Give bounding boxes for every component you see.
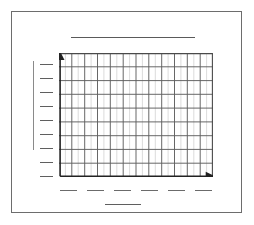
- plot-grid: [59, 53, 213, 177]
- y-tick-label: [40, 78, 53, 79]
- figure-canvas: [0, 0, 254, 225]
- x-tick-label: [141, 190, 158, 191]
- y-tick-label: [40, 106, 53, 107]
- y-tick-label: [40, 148, 53, 149]
- y-axis-tick-labels: [40, 64, 56, 177]
- x-axis-title-placeholder: [105, 204, 141, 205]
- x-tick-label: [87, 190, 104, 191]
- y-axis-line: [59, 53, 63, 176]
- y-axis-title-placeholder: [33, 61, 34, 150]
- y-tick-label: [40, 176, 53, 177]
- y-tick-label: [40, 134, 53, 135]
- x-axis-tick-labels: [60, 188, 212, 192]
- x-tick-label: [60, 190, 77, 191]
- y-tick-label: [40, 64, 53, 65]
- y-tick-label: [40, 92, 53, 93]
- x-axis-line: [60, 173, 213, 177]
- x-tick-label: [195, 190, 212, 191]
- y-tick-label: [40, 162, 53, 163]
- x-tick-label: [168, 190, 185, 191]
- chart-title-placeholder: [71, 37, 195, 38]
- x-tick-label: [114, 190, 131, 191]
- y-tick-label: [40, 120, 53, 121]
- plot-area: [59, 53, 213, 177]
